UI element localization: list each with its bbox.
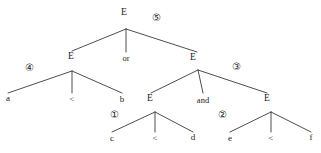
right-e: E [190, 53, 196, 63]
edge-righte-e2 [198, 70, 267, 93]
edge-e1-d [155, 112, 193, 132]
step-3: ③ [232, 62, 241, 72]
e2: E [264, 94, 270, 104]
edge-e2-e [230, 112, 271, 132]
leaf-c: c [110, 134, 114, 143]
leaf-a: a [6, 94, 10, 103]
edge-root-right [126, 29, 197, 52]
parse-tree-figure: EEEEEabcdeforand<<<①②③④⑤ [0, 0, 321, 153]
op-lt-1: < [70, 95, 75, 104]
leaf-e: e [228, 134, 232, 143]
op-lt-3: < [269, 134, 274, 143]
tree-edges [8, 29, 311, 132]
step-4: ④ [25, 63, 34, 73]
edge-lefte-b [72, 71, 122, 93]
step-1: ① [110, 110, 119, 120]
leaf-b: b [120, 95, 125, 104]
step-5: ⑤ [152, 13, 161, 23]
root: E [121, 8, 127, 18]
tree-edge-layer [0, 0, 321, 153]
e1: E [147, 94, 153, 104]
leaf-d: d [191, 133, 196, 142]
left-e: E [68, 52, 74, 62]
edge-root-left [72, 29, 126, 51]
edge-righte-e1 [151, 70, 198, 93]
leaf-f: f [310, 133, 313, 142]
step-2: ② [218, 110, 227, 120]
edge-lefte-a [8, 71, 72, 93]
edge-e2-f [271, 112, 311, 132]
op-or: or [122, 54, 129, 63]
op-and: and [197, 96, 209, 105]
op-lt-2: < [153, 134, 158, 143]
edge-righte-and [198, 70, 203, 93]
